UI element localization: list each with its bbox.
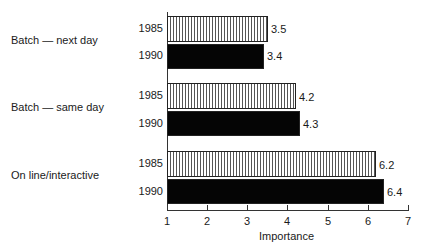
x-tick [167,205,168,211]
x-tick-label: 7 [401,215,415,227]
year-label-1990: 1990 [129,49,163,61]
year-label-1985: 1985 [129,89,163,101]
x-tick-label: 1 [160,215,174,227]
category-label-batch-next-day: Batch — next day [11,34,98,46]
bar-batch-next-day-1990 [167,44,264,69]
value-label: 3.5 [271,23,286,35]
x-tick [408,205,409,211]
bar-online-interactive-1985 [167,151,376,177]
bar-batch-same-day-1985 [167,83,296,109]
value-label: 3.4 [267,50,282,62]
bar-batch-same-day-1990 [167,111,300,136]
year-label-1985: 1985 [129,157,163,169]
value-label: 4.3 [303,118,318,130]
x-tick-label: 2 [200,215,214,227]
x-tick-label: 5 [321,215,335,227]
x-tick-label: 6 [361,215,375,227]
category-label-batch-same-day: Batch — same day [11,101,104,113]
year-label-1985: 1985 [129,22,163,34]
x-tick [247,205,248,211]
x-tick [207,205,208,211]
year-label-1990: 1990 [129,117,163,129]
value-label: 4.2 [299,91,314,103]
x-tick-label: 3 [240,215,254,227]
category-label-online-interactive: On line/interactive [11,169,99,181]
x-tick [328,205,329,211]
value-label: 6.4 [387,186,402,198]
bar-batch-next-day-1985 [167,16,268,42]
x-tick [368,205,369,211]
year-label-1990: 1990 [129,185,163,197]
x-axis-line [167,210,409,211]
bar-online-interactive-1990 [167,179,384,204]
x-tick-label: 4 [280,215,294,227]
x-axis-title: Importance [259,230,314,242]
x-tick [287,205,288,211]
value-label: 6.2 [379,159,394,171]
